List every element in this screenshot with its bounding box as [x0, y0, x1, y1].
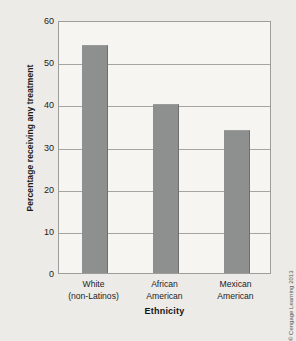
bar [224, 130, 250, 273]
x-axis-tick-labels: White(non-Latinos)AfricanAmericanMexican… [58, 279, 271, 309]
y-tick-label: 0 [32, 270, 54, 279]
y-tick-label: 60 [32, 17, 54, 26]
x-tick-label: MexicanAmerican [200, 279, 271, 302]
copyright-credit: © Cengage Learning 2013 [286, 251, 296, 341]
bar [82, 45, 108, 273]
bar [153, 104, 179, 273]
y-axis-tick-labels: 6050403020100 [30, 0, 54, 341]
plot-area [58, 21, 271, 274]
x-tick-label-line: American [129, 291, 200, 303]
x-tick-label-line: Mexican [200, 279, 271, 291]
x-axis-title: Ethnicity [58, 306, 271, 316]
bar-chart-figure: Percentage receiving any treatment 60504… [0, 0, 296, 341]
y-tick-label: 40 [32, 101, 54, 110]
bar-series [59, 22, 270, 273]
y-tick-label: 10 [32, 227, 54, 236]
x-tick-label-line: American [200, 291, 271, 303]
y-tick-label: 20 [32, 185, 54, 194]
x-tick-label: AfricanAmerican [129, 279, 200, 302]
x-tick-label: White(non-Latinos) [58, 279, 129, 302]
y-tick-label: 30 [32, 143, 54, 152]
x-tick-label-line: White [58, 279, 129, 291]
x-tick-label-line: African [129, 279, 200, 291]
y-tick-label: 50 [32, 59, 54, 68]
x-tick-label-line: (non-Latinos) [58, 291, 129, 303]
